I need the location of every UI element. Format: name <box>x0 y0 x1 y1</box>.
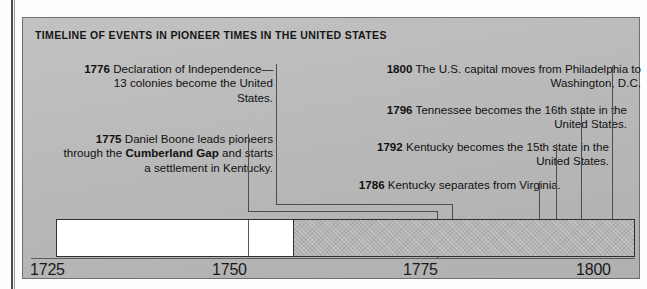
leader-line-1776-vertical <box>276 64 277 204</box>
event-text-1786: Kentucky separates from Virginia. <box>385 178 561 191</box>
event-label-1800: 1800 The U.S. capital moves from Philade… <box>353 62 641 91</box>
timeline-axis-line <box>31 258 635 259</box>
leader-line-1775-vertical <box>248 134 249 211</box>
leader-line-1776-drop <box>452 204 453 219</box>
leader-line-1775-horizontal <box>248 211 438 212</box>
page-binding-line-secondary <box>14 0 15 289</box>
axis-tick-label-1750: 1750 <box>212 261 247 279</box>
leader-line-1800-vertical <box>612 66 613 219</box>
event-label-1776: 1776 Declaration of Independence— 13 col… <box>83 62 273 105</box>
page-background: TIMELINE OF EVENTS IN PIONEER TIMES IN T… <box>0 0 647 289</box>
event-label-1792: 1792 Kentucky becomes the 15th state in … <box>353 140 609 169</box>
timeline-bar-tick-1750 <box>248 220 249 256</box>
leader-line-1792-vertical <box>556 144 557 219</box>
timeline-figure-panel: TIMELINE OF EVENTS IN PIONEER TIMES IN T… <box>22 17 640 279</box>
event-year-1800: 1800 <box>387 62 413 75</box>
page-binding-line <box>11 0 13 289</box>
event-text-1792: Kentucky becomes the 15th state in the U… <box>403 140 609 167</box>
timeline-bar-shaded-segment <box>293 220 634 256</box>
axis-tick-label-1800: 1800 <box>576 261 611 279</box>
event-label-1796: 1796 Tennessee becomes the 16th state in… <box>353 103 627 132</box>
axis-tick-label-1775: 1775 <box>403 261 438 279</box>
event-year-1775: 1775 <box>96 132 122 145</box>
axis-tick-label-1725: 1725 <box>30 261 65 279</box>
event-year-1776: 1776 <box>84 62 110 75</box>
leader-line-1796-vertical <box>581 107 582 219</box>
event-text-1776: Declaration of Independence— 13 colonies… <box>110 62 273 104</box>
figure-title: TIMELINE OF EVENTS IN PIONEER TIMES IN T… <box>35 29 387 41</box>
event-text-1796: Tennessee becomes the 16th state in the … <box>413 103 627 130</box>
event-label-1786: 1786 Kentucky separates from Virginia. <box>293 178 561 192</box>
leader-line-1786-vertical <box>539 182 540 219</box>
event-label-1775: 1775 Daniel Boone leads pioneers through… <box>61 132 273 175</box>
event-emphasis-cumberland-gap: Cumberland Gap <box>125 146 218 159</box>
event-year-1796: 1796 <box>387 103 413 116</box>
timeline-bar <box>56 219 635 257</box>
leader-line-1776-horizontal <box>276 204 452 205</box>
event-year-1786: 1786 <box>359 178 385 191</box>
event-year-1792: 1792 <box>377 140 403 153</box>
event-text-1800: The U.S. capital moves from Philadelphia… <box>412 62 641 89</box>
